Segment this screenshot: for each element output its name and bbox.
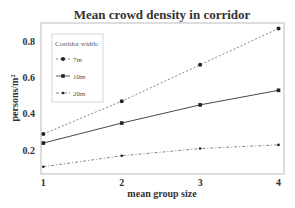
data-point xyxy=(120,99,124,103)
x-tick-label: 4 xyxy=(276,177,281,188)
legend-label: 10m xyxy=(73,73,86,81)
y-axis-label: persons/m² xyxy=(9,75,20,122)
y-tick-label: 0.2 xyxy=(23,145,36,156)
legend-marker xyxy=(61,57,65,61)
data-point xyxy=(199,147,202,150)
legend-marker xyxy=(62,92,65,95)
legend: Corridor width: 7m10m20m xyxy=(52,34,103,102)
data-point xyxy=(198,103,202,107)
legend-label: 20m xyxy=(73,90,86,98)
data-point xyxy=(198,63,202,67)
legend-title: Corridor width: xyxy=(55,40,99,48)
legend-marker xyxy=(61,74,65,78)
data-point xyxy=(42,141,46,145)
data-point xyxy=(277,144,280,147)
legend-label: 7m xyxy=(73,56,83,64)
x-tick-label: 3 xyxy=(198,177,203,188)
x-axis-label: mean group size xyxy=(127,188,197,199)
data-point xyxy=(277,89,281,93)
data-point xyxy=(120,155,123,158)
x-tick-label: 2 xyxy=(119,177,124,188)
chart-title: Mean crowd density in corridor xyxy=(74,7,251,22)
data-point xyxy=(277,26,281,30)
data-point xyxy=(120,121,124,125)
y-tick-label: 0.8 xyxy=(23,36,36,47)
data-point xyxy=(41,132,45,136)
y-tick-label: 0.4 xyxy=(23,108,36,119)
chart: Mean crowd density in corridor 0.20.40.6… xyxy=(0,0,295,208)
y-tick-label: 0.6 xyxy=(23,72,36,83)
x-tick-label: 1 xyxy=(41,177,46,188)
data-point xyxy=(42,165,45,168)
